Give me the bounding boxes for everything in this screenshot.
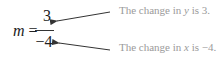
annotation-change-in-y: The change in y is 3. <box>119 4 210 16</box>
annotation-text: is 3. <box>189 4 210 16</box>
annotation-text: is −4. <box>189 41 216 53</box>
annotation-text: The change in <box>119 4 184 16</box>
arrow-to-denominator <box>59 43 110 50</box>
arrow-to-numerator <box>57 12 110 21</box>
annotation-text: The change in <box>119 41 184 53</box>
annotation-change-in-x: The change in x is −4. <box>119 41 216 53</box>
